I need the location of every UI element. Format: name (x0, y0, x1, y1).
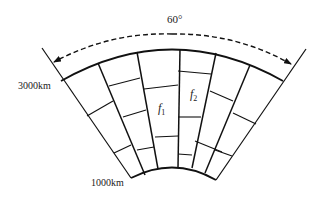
spherical-shell-sector-diagram: 60° 3000km 1000km f1 f2 (0, 0, 323, 201)
angle-label: 60° (167, 13, 182, 25)
radial-dividers (98, 49, 250, 175)
cell-label-f1: f1 (158, 101, 165, 117)
cell-cross-segments (87, 71, 256, 156)
cell-label-f2: f2 (190, 87, 197, 103)
outer-radius-label: 3000km (18, 80, 51, 91)
inner-radius-label: 1000km (91, 177, 124, 188)
